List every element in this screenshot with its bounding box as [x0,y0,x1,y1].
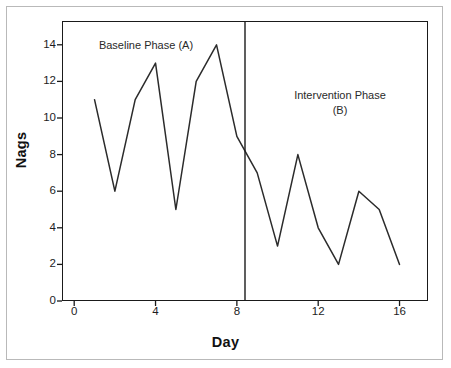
y-axis-tick-labels: 02468101214 [26,21,56,301]
baseline-phase-label: Baseline Phase (A) [86,38,206,53]
x-axis-title: Day [0,334,451,350]
x-axis-tick-label: 16 [393,305,406,317]
x-axis-tick-label: 8 [234,305,240,317]
intervention-phase-label: Intervention Phase (B) [277,88,403,118]
x-axis-tick-label: 12 [312,305,325,317]
chart-plot-svg [62,21,428,301]
x-axis-tick-labels: 0481216 [62,305,428,325]
y-axis-tick-label: 6 [50,185,56,196]
y-axis-tick-label: 10 [43,112,56,123]
y-axis-tick-label: 12 [43,75,56,86]
y-axis-tick-label: 4 [50,222,56,233]
y-axis-tick-label: 2 [50,258,56,269]
x-axis-tick-label: 4 [152,305,158,317]
y-axis-tick-label: 8 [50,149,56,160]
x-axis-tick-label: 0 [71,305,77,317]
y-axis-tick-label: 14 [43,39,56,50]
data-series-line [95,45,400,265]
y-axis-tick-label: 0 [50,295,56,306]
y-axis-title: Nags [13,120,29,180]
figure-container: 02468101214 0481216 Nags Day Baseline Ph… [0,0,451,368]
